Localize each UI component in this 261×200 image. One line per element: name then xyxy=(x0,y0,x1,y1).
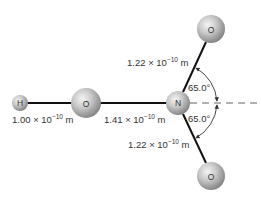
molecule-diagram: H O N O O 1.00 × 10−10 m 1.41 × 10−10 m … xyxy=(0,0,261,200)
atom-label-o-upper: O xyxy=(208,25,215,35)
atom-o-lower: O xyxy=(197,162,225,190)
angle-label-upper: 65.0° xyxy=(188,82,210,93)
atom-n: N xyxy=(166,91,190,115)
atom-label-n: N xyxy=(175,98,181,108)
bond-length-label-o-n: 1.41 × 10−10 m xyxy=(104,113,166,125)
atom-label-h: H xyxy=(17,98,23,108)
atom-o-upper: O xyxy=(197,15,225,43)
atom-o-hydroxyl: O xyxy=(71,88,101,118)
atom-label-o-lower: O xyxy=(208,172,215,182)
angle-label-lower: 65.0° xyxy=(188,113,210,124)
atom-h: H xyxy=(12,95,28,111)
bond-length-label-n-o-upper: 1.22 × 10−10 m xyxy=(127,56,189,68)
bond-length-label-h-o: 1.00 × 10−10 m xyxy=(12,113,74,125)
atom-label-o-hydroxyl: O xyxy=(83,99,90,109)
bond-length-label-n-o-lower: 1.22 × 10−10 m xyxy=(128,138,190,150)
